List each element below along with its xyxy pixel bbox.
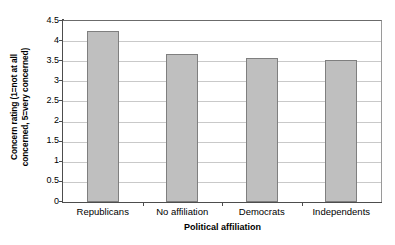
y-axis-tick-label: 0.5	[35, 176, 59, 185]
bar	[246, 58, 278, 202]
y-axis-tick-mark	[59, 181, 63, 182]
y-axis-title-line-2: concerned, 5=very concerned)	[20, 15, 31, 199]
y-axis-tick-mark	[59, 121, 63, 122]
y-axis-tick-label: 4	[35, 36, 59, 45]
bar-chart-figure: Concern rating (1=not at all concerned, …	[0, 0, 395, 245]
x-axis-tick-label: Independents	[302, 205, 382, 218]
y-axis-tick-mark	[59, 161, 63, 162]
y-axis-tick-mark	[59, 20, 63, 21]
bar	[166, 54, 198, 202]
x-axis-tick-mark	[302, 202, 303, 206]
x-axis-tick-mark	[222, 202, 223, 206]
y-axis-tick-label: 0	[35, 197, 59, 206]
y-axis-tick-mark	[59, 80, 63, 81]
y-axis-tick-label: 3	[35, 76, 59, 85]
y-axis-tick-mark	[59, 40, 63, 41]
y-axis-tick-label: 2.5	[35, 96, 59, 105]
y-axis-tick-label: 3.5	[35, 56, 59, 65]
y-axis-tick-label: 1.5	[35, 136, 59, 145]
y-axis-tick-label: 4.5	[35, 16, 59, 25]
bar	[325, 60, 357, 202]
x-axis-tick-label: Republicans	[63, 205, 143, 218]
x-axis-title: Political affiliation	[63, 222, 382, 233]
y-axis-tick-label: 2	[35, 116, 59, 125]
y-axis-tick-mark	[59, 141, 63, 142]
y-axis-tick-mark	[59, 60, 63, 61]
y-axis-tick-label: 1	[35, 156, 59, 165]
x-axis-tick-label: No affiliation	[143, 205, 223, 218]
plot-area	[63, 20, 382, 202]
x-axis-tick-labels: RepublicansNo affiliationDemocratsIndepe…	[63, 205, 382, 221]
bar	[87, 31, 119, 202]
y-axis-title-line-1: Concern rating (1=not at all	[9, 15, 20, 199]
x-axis-tick-mark	[143, 202, 144, 206]
y-axis-tick-labels: 00.511.522.533.544.5	[34, 0, 59, 245]
x-axis-tick-label: Democrats	[222, 205, 302, 218]
y-axis-tick-mark	[59, 201, 63, 202]
y-axis-tick-mark	[59, 100, 63, 101]
y-axis-title: Concern rating (1=not at all concerned, …	[9, 15, 31, 199]
